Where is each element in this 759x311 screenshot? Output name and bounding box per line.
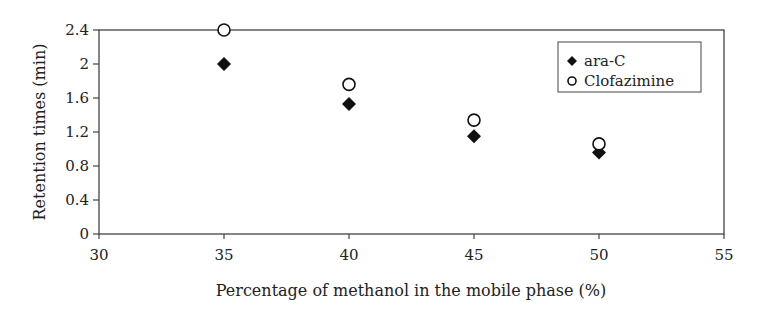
y-tick-label: 2.4 <box>65 21 89 39</box>
circle-marker <box>568 77 576 85</box>
x-tick-label: 55 <box>714 246 733 264</box>
y-tick-label: 0.4 <box>65 191 89 209</box>
y-tick-label: 1.2 <box>65 123 89 141</box>
y-tick-label: 0 <box>79 225 89 243</box>
circle-marker <box>593 138 605 150</box>
x-tick-label: 30 <box>89 246 108 264</box>
diamond-marker <box>217 57 231 71</box>
x-axis: 303540455055 <box>89 234 733 264</box>
y-axis: 00.40.81.21.622.4 <box>65 21 99 243</box>
x-tick-label: 35 <box>214 246 233 264</box>
data-points <box>217 24 606 159</box>
x-tick-label: 50 <box>589 246 608 264</box>
x-tick-label: 40 <box>339 246 358 264</box>
x-tick-label: 45 <box>464 246 483 264</box>
y-tick-label: 0.8 <box>65 157 89 175</box>
y-axis-title: Retention times (min) <box>30 44 49 221</box>
y-tick-label: 2 <box>79 55 89 73</box>
legend-label: ara-C <box>584 52 626 70</box>
circle-marker <box>468 114 480 126</box>
circle-marker <box>343 78 355 90</box>
circle-marker <box>218 24 230 36</box>
diamond-marker <box>342 97 356 111</box>
y-tick-label: 1.6 <box>65 89 89 107</box>
diamond-marker <box>467 129 481 143</box>
scatter-chart: 00.40.81.21.622.4 303540455055 Retention… <box>0 0 759 311</box>
legend-label: Clofazimine <box>584 72 674 90</box>
legend: ara-CClofazimine <box>558 42 701 92</box>
x-axis-title: Percentage of methanol in the mobile pha… <box>216 281 607 300</box>
